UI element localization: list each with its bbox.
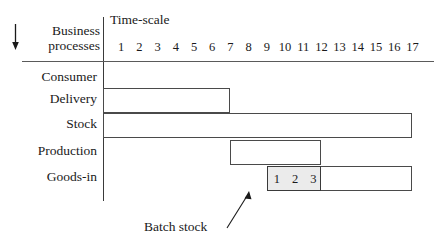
x-tick-14: 14 xyxy=(350,39,366,56)
x-tick-10: 10 xyxy=(277,39,293,56)
gantt-diagram: Business processes Time-scale 1234567891… xyxy=(0,0,434,248)
x-tick-5: 5 xyxy=(186,39,202,56)
bar-delivery xyxy=(103,88,230,113)
row-label-delivery: Delivery xyxy=(2,91,97,107)
x-tick-8: 8 xyxy=(241,39,257,56)
axis-corner-label-line2: processes xyxy=(22,38,100,53)
row-label-stock: Stock xyxy=(2,116,97,132)
x-tick-3: 3 xyxy=(150,39,166,56)
x-tick-1: 1 xyxy=(113,39,129,56)
row-label-production: Production xyxy=(2,143,97,159)
x-tick-16: 16 xyxy=(386,39,402,56)
batch-number-2: 2 xyxy=(288,167,302,190)
axis-corner-label: Business processes xyxy=(22,23,100,53)
x-tick-4: 4 xyxy=(168,39,184,56)
x-tick-17: 17 xyxy=(404,39,420,56)
down-arrow-icon xyxy=(11,24,20,50)
row-label-goods-in: Goods-in xyxy=(2,169,97,185)
batch-number-3: 3 xyxy=(306,167,320,190)
row-label-consumer: Consumer xyxy=(2,69,97,85)
batch-stock-cell: 123 xyxy=(267,166,322,191)
x-axis-tick-labels: 1234567891011121314151617 xyxy=(103,39,434,56)
batch-stock-annotation-label: Batch stock xyxy=(144,219,207,235)
bar-production xyxy=(230,140,321,165)
x-tick-6: 6 xyxy=(204,39,220,56)
x-tick-12: 12 xyxy=(313,39,329,56)
timescale-title: Time-scale xyxy=(110,12,170,27)
x-tick-15: 15 xyxy=(368,39,384,56)
x-tick-9: 9 xyxy=(259,39,275,56)
bar-stock xyxy=(103,113,412,138)
x-tick-7: 7 xyxy=(222,39,238,56)
axis-corner-label-line1: Business xyxy=(22,23,100,38)
header-separator-rule xyxy=(22,61,434,62)
x-tick-2: 2 xyxy=(131,39,147,56)
x-tick-11: 11 xyxy=(295,39,311,56)
batch-number-1: 1 xyxy=(270,167,284,190)
x-tick-13: 13 xyxy=(332,39,348,56)
